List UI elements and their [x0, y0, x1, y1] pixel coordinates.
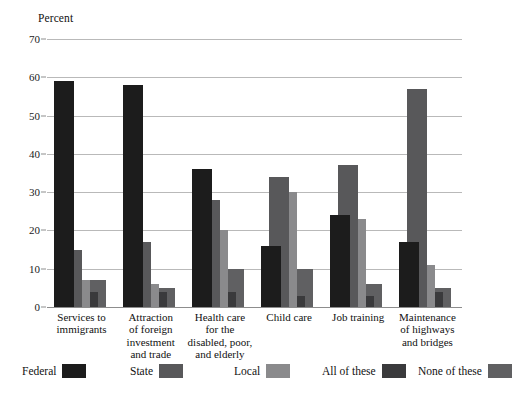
y-tick-mark-60 [41, 77, 46, 78]
bar [261, 246, 281, 307]
x-axis-label-line: investment [116, 336, 185, 348]
legend-color-swatch [382, 364, 406, 378]
legend-item[interactable]: None of these [418, 364, 512, 378]
legend-color-swatch [488, 364, 512, 378]
y-tick-mark-70 [41, 39, 46, 40]
x-axis-category-labels: Services toimmigrantsAttractionof foreig… [47, 311, 462, 359]
x-axis-label-line: Services to [47, 311, 116, 323]
bar-group [123, 39, 175, 307]
bar-group [192, 39, 244, 307]
x-axis-label: Services toimmigrants [47, 311, 116, 336]
y-tick-label-10: 10 [29, 263, 40, 275]
bar [399, 242, 419, 307]
bar [123, 85, 143, 307]
y-tick-label-70: 70 [29, 33, 40, 45]
y-tick-label-0: 0 [35, 301, 41, 313]
y-tick-label-60: 60 [29, 71, 40, 83]
bar [330, 215, 350, 307]
legend-item[interactable]: Local [234, 364, 290, 378]
x-axis-label-line: and bridges [393, 336, 462, 348]
legend-color-swatch [266, 364, 290, 378]
y-tick-mark-20 [41, 230, 46, 231]
y-tick-label-30: 30 [29, 186, 40, 198]
y-tick-mark-0 [41, 307, 46, 308]
x-axis-label-line: immigrants [47, 323, 116, 335]
bar [192, 169, 212, 307]
legend-item[interactable]: State [130, 364, 183, 378]
x-axis-label-line: and elderly [185, 348, 254, 360]
bar-group [399, 39, 451, 307]
y-tick-mark-40 [41, 153, 46, 154]
bar [54, 81, 74, 307]
x-axis-label: Attractionof foreigninvestmentand trade [116, 311, 185, 361]
gridline-0: 0 [47, 307, 462, 308]
legend-item-label: Local [234, 365, 260, 377]
x-axis-label-line: and trade [116, 348, 185, 360]
legend-item[interactable]: All of these [322, 364, 406, 378]
x-axis-label-line: Job training [324, 311, 393, 323]
bar-group [54, 39, 106, 307]
x-axis-label: Child care [255, 311, 324, 323]
x-axis-label-line: Attraction [116, 311, 185, 323]
y-tick-mark-10 [41, 268, 46, 269]
y-tick-label-40: 40 [29, 148, 40, 160]
legend-color-swatch [62, 364, 86, 378]
x-axis-label-line: for the [185, 323, 254, 335]
x-axis-label-line: of highways [393, 323, 462, 335]
x-axis-label-line: Maintenance [393, 311, 462, 323]
legend-color-swatch [159, 364, 183, 378]
y-tick-mark-30 [41, 192, 46, 193]
x-axis-label-line: Child care [255, 311, 324, 323]
legend-item[interactable]: Federal [22, 364, 86, 378]
y-tick-mark-50 [41, 115, 46, 116]
legend-item-label: None of these [418, 365, 482, 377]
x-axis-label-line: disabled, poor, [185, 336, 254, 348]
bar-group [330, 39, 382, 307]
legend-item-label: State [130, 365, 153, 377]
y-axis-title: Percent [38, 12, 73, 24]
legend-item-label: Federal [22, 365, 56, 377]
x-axis-label: Job training [324, 311, 393, 323]
x-axis-label: Health carefor thedisabled, poor,and eld… [185, 311, 254, 361]
x-axis-label-line: of foreign [116, 323, 185, 335]
legend-item-label: All of these [322, 365, 376, 377]
chart-legend: FederalStateLocalAll of theseNone of the… [22, 364, 462, 386]
plot-area: 010203040506070 [47, 39, 462, 307]
x-axis-label-line: Health care [185, 311, 254, 323]
x-axis-label: Maintenanceof highwaysand bridges [393, 311, 462, 348]
bar-group [261, 39, 313, 307]
y-tick-label-50: 50 [29, 110, 40, 122]
y-tick-label-20: 20 [29, 224, 40, 236]
